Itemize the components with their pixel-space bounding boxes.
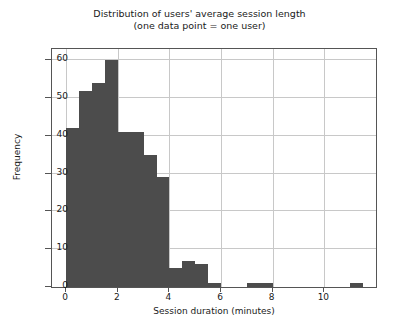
histogram-bar: [169, 268, 182, 287]
x-axis-label: Session duration (minutes): [51, 306, 377, 316]
chart-title-line-1: Distribution of users' average session l…: [0, 8, 399, 20]
histogram-bar: [118, 132, 131, 287]
x-tick-label: 8: [257, 292, 287, 302]
x-tick-label: 10: [308, 292, 338, 302]
y-tick-label: 20: [28, 204, 68, 214]
x-tick-label: 0: [50, 292, 80, 302]
histogram-bar: [66, 128, 79, 287]
y-tick-label: 60: [28, 53, 68, 63]
chart-subtitle: (one data point = one user): [0, 20, 399, 32]
histogram-bars: [52, 49, 376, 287]
y-tick-label: 30: [28, 167, 68, 177]
chart-title: Distribution of users' average session l…: [0, 8, 399, 32]
histogram-figure: Distribution of users' average session l…: [0, 0, 399, 331]
x-tick-label: 6: [205, 292, 235, 302]
plot-area: [51, 48, 377, 288]
y-tick-label: 0: [28, 280, 68, 290]
histogram-bar: [92, 83, 105, 287]
histogram-bar: [350, 283, 363, 287]
histogram-bar: [208, 283, 221, 287]
y-axis-label: Frequency: [12, 97, 22, 217]
histogram-bar: [131, 132, 144, 287]
y-tick-label: 10: [28, 242, 68, 252]
histogram-bar: [247, 283, 260, 287]
x-tick-label: 2: [102, 292, 132, 302]
histogram-bar: [144, 155, 157, 287]
histogram-bar: [182, 261, 195, 287]
y-tick-label: 50: [28, 91, 68, 101]
histogram-bar: [105, 60, 118, 287]
x-tick-label: 4: [153, 292, 183, 302]
y-tick-label: 40: [28, 129, 68, 139]
histogram-bar: [195, 264, 208, 287]
histogram-bar: [260, 283, 273, 287]
histogram-bar: [157, 177, 170, 287]
histogram-bar: [79, 91, 92, 287]
